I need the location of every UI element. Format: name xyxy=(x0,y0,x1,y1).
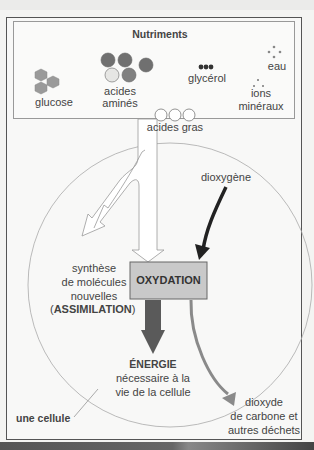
nutrient-flow-arrows xyxy=(82,119,164,262)
ions-label-1: ions xyxy=(236,87,286,100)
eau-label: eau xyxy=(262,60,292,73)
acides-amines-label-2: aminés xyxy=(97,97,143,110)
dechets-line-1: dioxyde xyxy=(224,396,304,409)
dioxygene-label: dioxygène xyxy=(196,171,256,184)
cellule-label: une cellule xyxy=(16,412,70,425)
energie-line-2: vie de la cellule xyxy=(108,386,198,399)
page-footer-strip xyxy=(0,442,314,450)
synthese-line-4: (ASSIMILATION) xyxy=(50,303,134,316)
synthese-line-1: synthèse xyxy=(54,262,134,275)
energie-arrow xyxy=(141,300,165,354)
ions-mineraux-icon xyxy=(253,79,264,87)
energie-title: ÉNERGIE xyxy=(113,358,193,371)
glycerol-icon xyxy=(199,65,214,70)
nutriments-title: Nutriments xyxy=(120,28,200,41)
glucose-icon xyxy=(35,69,59,94)
ions-label-2: minéraux xyxy=(236,100,286,113)
assimilation-label: ASSIMILATION xyxy=(54,303,132,315)
synthese-line-3: nouvelles xyxy=(54,290,134,303)
dechets-line-3: autres déchets xyxy=(224,424,304,437)
energie-line-1: nécessaire à la xyxy=(108,372,198,385)
glycerol-label: glycérol xyxy=(181,72,233,85)
dioxygene-arrow xyxy=(203,187,226,250)
acides-amines-icon xyxy=(101,53,153,82)
synthese-line-2: de molécules xyxy=(54,276,134,289)
eau-icon xyxy=(268,46,282,59)
dechets-line-2: de carbone et xyxy=(224,410,304,423)
oxydation-label: OXYDATION xyxy=(130,274,207,287)
paren-close: ) xyxy=(132,303,136,315)
glucose-label: glucose xyxy=(24,96,84,109)
acides-gras-label: acides gras xyxy=(145,121,205,134)
acides-gras-icon xyxy=(155,109,195,121)
